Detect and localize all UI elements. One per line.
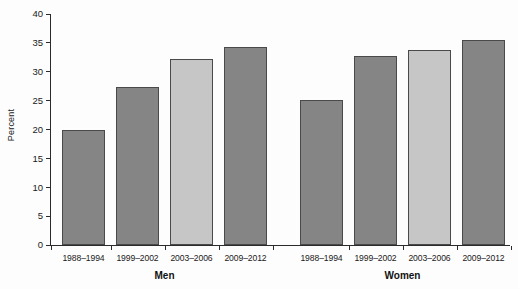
x-axis-tick-mark xyxy=(403,246,404,250)
x-axis-tick-mark xyxy=(51,246,52,250)
y-axis-tick-label: 30 xyxy=(23,67,43,77)
y-axis-tick-mark xyxy=(46,187,50,188)
bar xyxy=(354,56,397,245)
x-axis-tick-mark xyxy=(111,246,112,250)
y-axis-tick-mark xyxy=(46,216,50,217)
y-axis-tick-mark xyxy=(46,129,50,130)
y-axis-tick-mark xyxy=(46,100,50,101)
x-axis-tick-mark xyxy=(511,246,512,250)
x-axis-tick-mark xyxy=(457,246,458,250)
bar xyxy=(224,47,267,245)
y-axis-tick-label: 25 xyxy=(23,95,43,105)
y-axis-tick-label: 0 xyxy=(23,240,43,250)
group-label: Men xyxy=(115,270,215,281)
y-axis-tick-label: 40 xyxy=(23,9,43,19)
y-axis-tick-mark xyxy=(46,71,50,72)
y-axis-tick-label: 20 xyxy=(23,124,43,134)
plot-area: 0510152025303540 xyxy=(50,14,510,246)
bar xyxy=(300,100,343,245)
y-axis-label: Percent xyxy=(0,0,22,250)
bar xyxy=(170,59,213,245)
y-axis-tick-label: 15 xyxy=(23,153,43,163)
y-axis-tick-mark xyxy=(46,158,50,159)
x-axis-line xyxy=(50,245,510,246)
x-axis-tick-mark xyxy=(273,246,274,250)
x-axis-tick-mark xyxy=(219,246,220,250)
y-axis-tick-label: 35 xyxy=(23,38,43,48)
y-axis-tick-label: 5 xyxy=(23,211,43,221)
x-axis-category-label: 2009–2012 xyxy=(206,253,286,263)
y-axis-tick-mark xyxy=(46,245,50,246)
bar-chart: Percent 0510152025303540 1988–19941999–2… xyxy=(0,0,518,289)
x-axis-category-label: 2009–2012 xyxy=(444,253,518,263)
y-axis-tick-mark xyxy=(46,14,50,15)
group-label: Women xyxy=(353,270,453,281)
bar xyxy=(462,40,505,245)
x-axis-tick-mark xyxy=(165,246,166,250)
x-axis-tick-mark xyxy=(349,246,350,250)
bar xyxy=(116,87,159,245)
y-axis-label-text: Percent xyxy=(6,109,16,141)
y-axis-tick-label: 10 xyxy=(23,182,43,192)
y-axis-tick-mark xyxy=(46,42,50,43)
y-axis-line xyxy=(50,14,51,246)
bar xyxy=(62,130,105,245)
bar xyxy=(408,50,451,245)
